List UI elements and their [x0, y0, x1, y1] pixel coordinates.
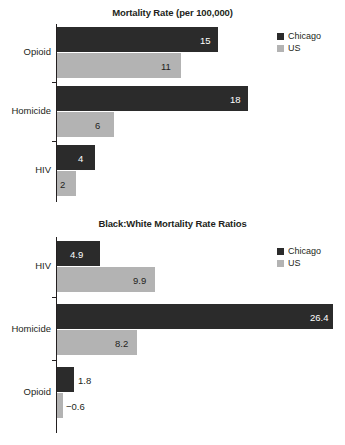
- bar-value-us-opioid: 11: [161, 62, 171, 72]
- category-label-opioid: Opioid: [0, 47, 51, 57]
- bar-us-opioid: [57, 393, 63, 418]
- bar-value-us-homicide: 6: [95, 121, 100, 131]
- axis-tick: [52, 82, 56, 83]
- bar-value-chicago-homicide: 26.4: [310, 313, 329, 323]
- legend-item-chicago: Chicago: [277, 245, 321, 257]
- bar-us-homicide: [57, 112, 114, 137]
- legend-swatch-chicago-icon: [277, 33, 284, 40]
- legend-black-white-ratios: Chicago US: [277, 245, 321, 269]
- bar-value-chicago-opioid: 15: [200, 36, 211, 46]
- bar-value-us-hiv: 9.9: [133, 276, 146, 286]
- legend-item-us: US: [277, 257, 321, 269]
- axis-tick: [52, 297, 56, 298]
- bar-chicago-homicide: [57, 304, 333, 329]
- legend-label-chicago: Chicago: [288, 247, 321, 256]
- bar-value-chicago-opioid: 1.8: [78, 376, 91, 386]
- legend-item-chicago: Chicago: [277, 30, 321, 42]
- bar-value-chicago-homicide: 18: [230, 95, 241, 105]
- legend-label-chicago: Chicago: [288, 32, 321, 41]
- bar-chicago-opioid: [57, 367, 74, 392]
- legend-mortality-rate: Chicago US: [277, 30, 321, 54]
- category-label-homicide: Homicide: [0, 324, 51, 334]
- mortality-rate-chart: Mortality Rate (per 100,000) Opioid 15 1…: [0, 0, 345, 215]
- category-label-homicide: Homicide: [0, 106, 51, 116]
- bar-value-chicago-hiv: 4: [78, 154, 83, 164]
- axis-tick: [52, 360, 56, 361]
- legend-item-us: US: [277, 42, 321, 54]
- bar-chicago-homicide: [57, 86, 248, 111]
- legend-swatch-chicago-icon: [277, 248, 284, 255]
- legend-swatch-us-icon: [277, 260, 284, 267]
- legend-label-us: US: [288, 44, 301, 53]
- legend-label-us: US: [288, 259, 301, 268]
- bar-value-us-opioid: −0.6: [66, 402, 85, 412]
- bar-value-us-hiv: 2: [60, 180, 65, 190]
- category-label-hiv: HIV: [0, 165, 51, 175]
- black-white-ratio-chart: Black:White Mortality Rate Ratios HIV 4.…: [0, 215, 345, 445]
- category-label-hiv: HIV: [0, 261, 51, 271]
- bar-chicago-opioid: [57, 27, 218, 52]
- legend-swatch-us-icon: [277, 45, 284, 52]
- category-label-opioid: Opioid: [0, 387, 51, 397]
- axis-tick: [52, 141, 56, 142]
- bar-value-us-homicide: 8.2: [115, 339, 128, 349]
- bar-value-chicago-hiv: 4.9: [70, 250, 83, 260]
- bar-chicago-hiv: [57, 145, 95, 170]
